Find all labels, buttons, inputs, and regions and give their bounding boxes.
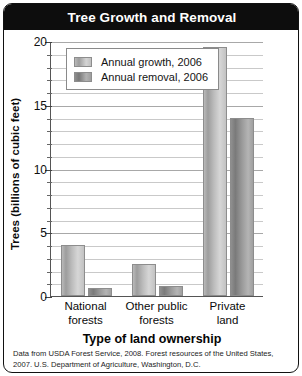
legend-swatch-growth-icon <box>74 57 92 67</box>
y-axis-tick-label: 0 <box>40 290 47 304</box>
x-axis-category-label: Other publicforests <box>121 300 192 327</box>
gridline <box>51 42 263 43</box>
y-axis-tick <box>47 131 52 132</box>
y-axis-title-text: Trees (billions of cubic feet) <box>9 97 21 249</box>
bar-growth <box>132 264 156 296</box>
legend-item-removal: Annual removal, 2006 <box>74 69 208 84</box>
x-axis-category-label: Privateland <box>192 300 263 327</box>
x-axis-category-label: Nationalforests <box>50 300 121 327</box>
y-axis-tick <box>47 272 52 273</box>
y-axis-tick <box>47 208 52 209</box>
y-axis-tick <box>47 259 52 260</box>
y-axis-tick <box>47 144 52 145</box>
chart-title: Tree Growth and Removal <box>68 10 237 25</box>
x-axis-category-labels: NationalforestsOther publicforestsPrivat… <box>50 300 263 334</box>
bar-growth <box>61 245 85 296</box>
bar-removal <box>230 118 254 297</box>
y-axis-tick <box>47 284 52 285</box>
source-note: Data from USDA Forest Service, 2008. For… <box>13 349 291 370</box>
y-axis-tick <box>47 195 52 196</box>
gridline <box>51 106 263 107</box>
y-axis-tick-label: 5 <box>40 226 47 240</box>
y-axis-tick <box>47 221 52 222</box>
x-axis-title: Type of land ownership <box>4 332 299 346</box>
gridline <box>51 93 263 94</box>
legend-item-growth: Annual growth, 2006 <box>74 54 208 69</box>
y-axis-tick <box>47 68 52 69</box>
chart-legend: Annual growth, 2006 Annual removal, 2006 <box>66 48 219 90</box>
y-axis-tick <box>47 119 52 120</box>
y-axis-title: Trees (billions of cubic feet) <box>6 56 24 291</box>
y-axis-tick <box>47 55 52 56</box>
y-axis-tick <box>47 182 52 183</box>
chart-title-bar: Tree Growth and Removal <box>4 4 299 30</box>
y-axis-tick <box>47 157 52 158</box>
legend-swatch-removal-icon <box>74 72 92 82</box>
y-axis-tick-label: 20 <box>34 35 47 49</box>
bar-removal <box>159 286 183 296</box>
legend-label-growth: Annual growth, 2006 <box>101 56 202 68</box>
y-axis-tick-label: 15 <box>34 99 47 113</box>
chart-figure: Tree Growth and Removal Trees (billions … <box>0 0 302 376</box>
legend-label-removal: Annual removal, 2006 <box>101 71 208 83</box>
y-axis-tick <box>47 93 52 94</box>
y-axis-tick <box>47 246 52 247</box>
y-axis-tick-label: 10 <box>34 163 47 177</box>
chart-frame: Tree Growth and Removal Trees (billions … <box>3 3 299 373</box>
y-axis-tick <box>47 80 52 81</box>
bar-removal <box>88 288 112 296</box>
